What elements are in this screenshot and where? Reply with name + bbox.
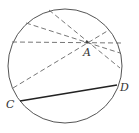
label-a: A xyxy=(82,46,91,59)
circle xyxy=(8,9,122,123)
geometry-diagram: A C D xyxy=(0,0,139,133)
dashed-chord-1 xyxy=(49,10,120,68)
dashed-chord-4 xyxy=(13,30,109,88)
point-a xyxy=(86,41,89,44)
label-c: C xyxy=(6,98,15,111)
label-d: D xyxy=(119,81,129,94)
dashed-chord-2 xyxy=(26,23,120,53)
chord-cd xyxy=(20,85,117,101)
dashed-chord-3 xyxy=(12,42,121,43)
